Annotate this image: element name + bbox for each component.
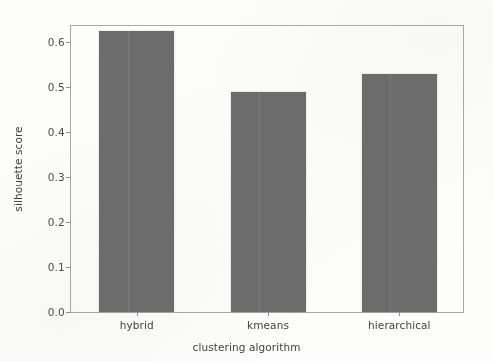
x-tick-label-kmeans: kmeans <box>247 319 289 331</box>
bar-kmeans <box>231 92 306 313</box>
y-tick-label: 0.4 <box>48 126 65 138</box>
y-tick-label: 0.2 <box>48 216 65 228</box>
y-tick-label: 0.3 <box>48 171 65 183</box>
y-tick-label: 0.5 <box>48 81 65 93</box>
y-tick-mark <box>66 87 71 88</box>
x-axis-title: clustering algorithm <box>0 341 493 353</box>
bar-hybrid <box>99 31 174 312</box>
y-tick-mark <box>66 222 71 223</box>
x-tick-label-hierarchical: hierarchical <box>368 319 431 331</box>
y-tick-mark <box>66 177 71 178</box>
x-tick-mark <box>268 312 269 316</box>
y-tick-label: 0.1 <box>48 261 65 273</box>
y-axis-title: silhouette score <box>12 126 24 211</box>
bar-hierarchical <box>362 74 437 313</box>
x-tick-mark <box>399 312 400 316</box>
y-tick-label: 0.0 <box>48 306 65 318</box>
y-tick-mark <box>66 267 71 268</box>
y-tick-mark <box>66 132 71 133</box>
y-tick-label: 0.6 <box>48 36 65 48</box>
x-tick-mark <box>137 312 138 316</box>
figure-page: 0.00.10.20.30.40.50.6 hybridkmeanshierar… <box>0 0 493 361</box>
plot-area: 0.00.10.20.30.40.50.6 hybridkmeanshierar… <box>70 25 464 313</box>
y-tick-mark <box>66 312 71 313</box>
x-tick-label-hybrid: hybrid <box>120 319 154 331</box>
bar-chart-figure: 0.00.10.20.30.40.50.6 hybridkmeanshierar… <box>0 0 493 361</box>
y-tick-mark <box>66 42 71 43</box>
